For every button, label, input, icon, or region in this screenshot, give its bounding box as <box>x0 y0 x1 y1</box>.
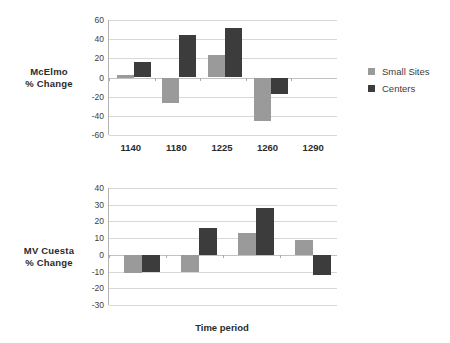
legend-swatch-centers-icon <box>368 85 375 92</box>
mvcuesta-caption-line-1: MV Cuesta <box>6 245 92 257</box>
y-tick-label--30: -30 <box>92 300 104 310</box>
gridline--30 <box>109 305 337 306</box>
bar-group <box>200 20 246 135</box>
chart-panel-mcelmo: McElmo % Change 6040200-20-40-60 1140118… <box>0 0 450 172</box>
y-tick-label-10: 10 <box>95 233 104 243</box>
x-tick-label-1140: 1140 <box>120 142 141 153</box>
y-tick-label--20: -20 <box>92 283 104 293</box>
y-tick-label--60: -60 <box>92 130 104 140</box>
bar-centers <box>179 35 196 77</box>
bar-group <box>291 20 337 135</box>
bar-small-sites <box>254 78 271 121</box>
y-tick-label-0: 0 <box>99 73 104 83</box>
bar-centers <box>134 62 151 77</box>
mcelmo-legend: Small Sites Centers <box>368 63 430 97</box>
x-tick-label-1225: 1225 <box>211 142 232 153</box>
bar-group <box>280 188 337 305</box>
mcelmo-caption-line-1: McElmo <box>6 66 92 78</box>
bar-small-sites <box>181 255 199 272</box>
x-tick-mark <box>280 255 281 258</box>
y-tick-label--10: -10 <box>92 267 104 277</box>
bar-small-sites <box>295 240 313 255</box>
bar-small-sites <box>117 75 134 78</box>
y-tick-label-60: 60 <box>95 15 104 25</box>
x-tick-mark <box>155 78 156 81</box>
x-axis-title: Time period <box>108 322 336 333</box>
bar-small-sites <box>238 233 256 255</box>
bar-group <box>246 20 292 135</box>
x-tick-mark <box>246 78 247 81</box>
x-tick-label-1260: 1260 <box>257 142 278 153</box>
bar-group <box>109 188 166 305</box>
y-tick-label--40: -40 <box>92 111 104 121</box>
legend-item-centers: Centers <box>368 80 430 97</box>
x-tick-label-1290: 1290 <box>303 142 324 153</box>
figure-two-bar-charts: McElmo % Change 6040200-20-40-60 1140118… <box>0 0 450 343</box>
bar-centers <box>256 208 274 255</box>
y-tick-label-0: 0 <box>99 250 104 260</box>
x-tick-mark <box>291 78 292 81</box>
mcelmo-caption-line-2: % Change <box>6 78 92 90</box>
y-tick-label-40: 40 <box>95 34 104 44</box>
legend-label-centers: Centers <box>382 83 415 94</box>
x-tick-mark <box>223 255 224 258</box>
y-tick-label--20: -20 <box>92 92 104 102</box>
mvcuesta-caption-line-2: % Change <box>6 257 92 269</box>
legend-item-small-sites: Small Sites <box>368 63 430 80</box>
bar-centers <box>199 228 217 255</box>
bar-small-sites <box>124 255 142 273</box>
mvcuesta-axis-caption: MV Cuesta % Change <box>6 245 92 269</box>
bar-centers <box>271 78 288 94</box>
mvcuesta-plot-area: 403020100-10-20-30 <box>108 188 337 305</box>
y-tick-label-20: 20 <box>95 216 104 226</box>
mcelmo-axis-caption: McElmo % Change <box>6 66 92 90</box>
bar-group <box>155 20 201 135</box>
bar-small-sites <box>162 78 179 104</box>
mcelmo-x-tick-labels: 11401180122512601290 <box>108 142 336 156</box>
x-tick-mark <box>109 78 110 81</box>
bar-centers <box>225 28 242 78</box>
x-tick-mark <box>109 255 110 258</box>
bar-group <box>166 188 223 305</box>
y-tick-label-30: 30 <box>95 200 104 210</box>
bar-group <box>223 188 280 305</box>
y-tick-label-20: 20 <box>95 53 104 63</box>
legend-label-small-sites: Small Sites <box>382 66 430 77</box>
y-tick-label-40: 40 <box>95 183 104 193</box>
x-tick-mark <box>166 255 167 258</box>
x-tick-mark <box>200 78 201 81</box>
bar-centers <box>313 255 331 275</box>
x-tick-label-1180: 1180 <box>166 142 187 153</box>
bar-centers <box>142 255 160 272</box>
mcelmo-plot-area: 6040200-20-40-60 <box>108 20 337 135</box>
bar-small-sites <box>208 55 225 77</box>
gridline--60 <box>109 135 337 136</box>
bar-group <box>109 20 155 135</box>
legend-swatch-small-sites-icon <box>368 68 375 75</box>
